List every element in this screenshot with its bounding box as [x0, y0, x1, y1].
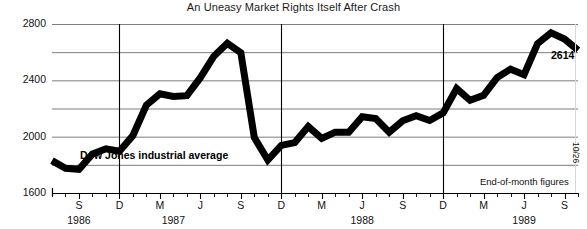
- year-divider-lines: [120, 24, 444, 193]
- y-axis-tick-label: 2400: [12, 73, 46, 85]
- x-axis-month-label: M: [313, 199, 331, 211]
- gridlines-group: [52, 25, 578, 166]
- footer-text: [6, 220, 9, 227]
- x-axis-month-label: J: [353, 199, 371, 211]
- x-axis-month-label: M: [151, 199, 169, 211]
- x-axis-month-label: M: [475, 199, 493, 211]
- end-of-month-note: End-of-month figures: [480, 176, 569, 187]
- x-axis-month-label: D: [434, 199, 452, 211]
- last-value-label: 2614: [551, 49, 574, 61]
- y-axis-tick-label: 2000: [12, 130, 46, 142]
- x-axis-month-label: J: [191, 199, 209, 211]
- x-axis-month-label: S: [394, 199, 412, 211]
- crash-date-label: 10/26: [571, 142, 581, 163]
- x-axis-month-label: J: [515, 199, 533, 211]
- x-axis-month-label: D: [272, 199, 290, 211]
- x-axis-month-label: S: [232, 199, 250, 211]
- chart-plot-area: [0, 0, 587, 229]
- footer-strip: [0, 220, 587, 229]
- x-axis-month-label: S: [556, 199, 574, 211]
- series-label: Dow Jones industrial average: [80, 149, 228, 161]
- x-axis-month-label: S: [70, 199, 88, 211]
- y-axis-tick-label: 2800: [12, 17, 46, 29]
- x-axis-month-label: D: [110, 199, 128, 211]
- y-axis-tick-label: 1600: [12, 186, 46, 198]
- dow-jones-line-chart: An Uneasy Market Rights Itself After Cra…: [0, 0, 587, 229]
